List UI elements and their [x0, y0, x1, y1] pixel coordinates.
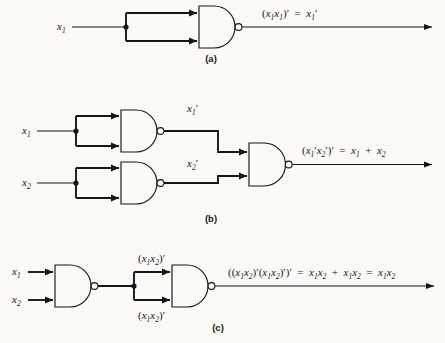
- intermediate-label-x2-prime-b: x2′: [186, 157, 198, 172]
- input-label-x1-b: x1: [21, 124, 31, 139]
- nand-gate-a1: [199, 6, 235, 48]
- intermediate-label-x1-prime-b: x1′: [186, 102, 198, 117]
- nand-gate-b3: [249, 143, 286, 186]
- inversion-bubble-c1: [91, 283, 98, 290]
- inversion-bubble-c2: [208, 283, 215, 290]
- caption-b: (b): [205, 213, 217, 224]
- inversion-bubble-b3: [285, 161, 292, 168]
- nand-gate-b1: [121, 110, 157, 152]
- nand-gate-c2: [172, 265, 208, 307]
- input-label-x2-b: x2: [21, 176, 31, 191]
- input-label-x1-a: x1: [56, 20, 66, 35]
- output-expression-a: (x1x1)′ = x1′: [262, 7, 317, 22]
- caption-c: (c): [212, 322, 224, 333]
- nand-gate-c1: [55, 265, 91, 307]
- output-expression-b: (x1′x2′)′ = x1 + x2: [302, 144, 386, 159]
- panel-c: x1 x2 (x1x2)′ (x1x2)′ ((x1x2)′(x1x2: [11, 252, 434, 333]
- intermediate-label-bottom-c: (x1x2)′: [138, 309, 165, 324]
- panel-b: x1 x1′ x2 x2′: [21, 102, 432, 224]
- figure-canvas: x1 (x1x1)′ = x1′ (a): [0, 0, 445, 343]
- input-label-x1-c: x1: [11, 265, 21, 280]
- panel-a: x1 (x1x1)′ = x1′ (a): [56, 6, 432, 64]
- wire-x2-prime-route: [164, 176, 247, 183]
- wire-x1-prime-route: [164, 131, 247, 152]
- output-expression-c: ((x1x2)′(x1x2)′)′ = x1x2 + x1x2 = x1x2: [228, 266, 396, 281]
- input-label-x2-c: x2: [11, 293, 21, 308]
- caption-a: (a): [205, 53, 217, 64]
- inversion-bubble-b2: [157, 180, 164, 187]
- inversion-bubble-b1: [157, 128, 164, 135]
- nand-gate-b2: [121, 162, 157, 204]
- intermediate-label-top-c: (x1x2)′: [138, 252, 165, 267]
- inversion-bubble-a: [235, 24, 242, 31]
